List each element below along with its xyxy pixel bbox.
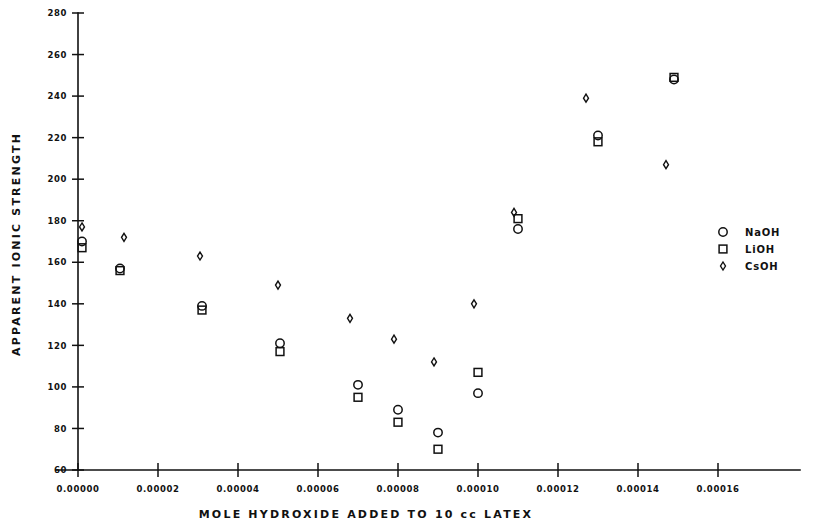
x-axis-tick-labels: 0.000000.000020.000040.000060.000080.000… [57,484,740,494]
y-tick-label: 120 [47,341,67,351]
x-tick-label: 0.00016 [697,484,740,494]
y-tick-label: 80 [54,424,67,434]
marker-diamond [432,358,437,366]
marker-circle [354,381,362,389]
x-tick-label: 0.00008 [377,484,420,494]
marker-diamond [348,314,353,322]
y-axis-tick-labels: 6080100120140160180200220240260280 [47,8,67,475]
marker-diamond [198,252,203,260]
marker-diamond [584,94,589,102]
marker-circle [434,428,442,436]
y-tick-label: 280 [47,8,67,18]
data-points [78,73,678,453]
marker-square [354,393,362,401]
marker-circle [276,339,284,347]
y-tick-label: 220 [47,133,67,143]
marker-circle [394,406,402,414]
y-tick-label: 60 [54,465,67,475]
x-tick-label: 0.00014 [617,484,660,494]
y-tick-label: 160 [47,257,67,267]
marker-square [434,445,442,453]
marker-diamond [721,262,726,270]
legend-label: LiOH [745,244,775,255]
y-axis-title: APPARENT IONIC STRENGTH [10,132,23,356]
marker-diamond [80,223,85,231]
marker-diamond [276,281,281,289]
series-naoh [78,75,678,437]
x-tick-label: 0.00000 [57,484,100,494]
y-tick-label: 240 [47,91,67,101]
y-tick-label: 140 [47,299,67,309]
plot-axes [56,13,800,470]
plot-canvas: 0.000000.000020.000040.000060.000080.000… [0,0,824,532]
marker-diamond [122,233,127,241]
marker-square [514,215,522,223]
marker-square [394,418,402,426]
x-axis-title: MOLE HYDROXIDE ADDED TO 10 cc LATEX [199,508,534,521]
legend-label: CsOH [745,261,778,272]
legend: NaOHLiOHCsOH [719,227,780,272]
series-lioh [78,73,678,453]
x-tick-label: 0.00004 [217,484,260,494]
scatter-plot-figure: 0.000000.000020.000040.000060.000080.000… [0,0,824,532]
marker-square [719,245,727,253]
marker-circle [116,264,124,272]
legend-item-lioh: LiOH [719,244,775,255]
marker-diamond [392,335,397,343]
legend-label: NaOH [745,227,780,238]
y-tick-label: 260 [47,50,67,60]
marker-circle [474,389,482,397]
y-tick-label: 180 [47,216,67,226]
marker-square [474,368,482,376]
x-tick-label: 0.00006 [297,484,340,494]
marker-circle [670,75,678,83]
series-csoh [80,94,669,366]
x-tick-label: 0.00002 [137,484,180,494]
y-tick-label: 200 [47,174,67,184]
marker-square [276,348,284,356]
marker-diamond [472,300,477,308]
marker-diamond [664,161,669,169]
x-tick-label: 0.00012 [537,484,580,494]
legend-item-naoh: NaOH [719,227,780,238]
y-tick-label: 100 [47,382,67,392]
marker-circle [514,225,522,233]
x-tick-label: 0.00010 [457,484,500,494]
marker-circle [719,228,727,236]
legend-item-csoh: CsOH [721,261,779,272]
